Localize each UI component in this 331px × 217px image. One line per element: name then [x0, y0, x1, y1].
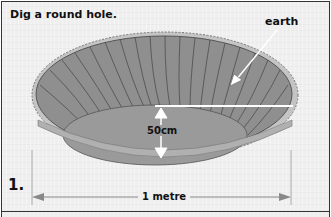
instruction-title: Dig a round hole.: [10, 8, 117, 21]
hole-diagram: [0, 0, 331, 217]
earth-label: earth: [265, 15, 298, 28]
step-number: 1.: [8, 176, 24, 194]
width-label: 1 metre: [138, 191, 190, 202]
depth-label: 50cm: [146, 125, 178, 136]
hole-icon: [36, 36, 292, 165]
